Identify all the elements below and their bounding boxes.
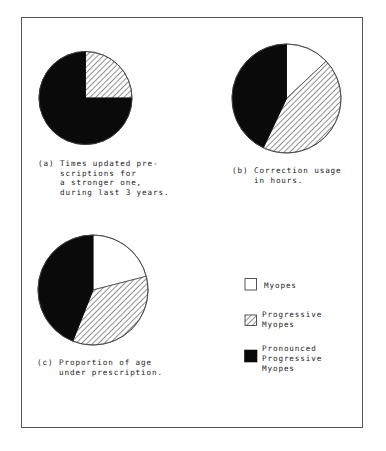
legend-item-myopes: Myopes <box>245 279 297 291</box>
caption-a-line: during last 3 years. <box>60 188 169 197</box>
caption-a-line: Times updated pre- <box>60 159 159 168</box>
legend-item-pronounced-progressive-myopes: Pronounced Progressive Myopes <box>245 344 323 373</box>
caption-b: (b) Correction usage in hours. <box>232 166 342 185</box>
pie-chart-b <box>232 44 341 153</box>
caption-a-line: a stronger one, <box>60 178 142 187</box>
legend-label: Progressive <box>262 310 322 319</box>
pie-chart-c <box>38 235 148 345</box>
legend-item-progressive-myopes: Progressive Myopes <box>245 310 322 329</box>
caption-c-line: under prescription. <box>59 368 163 377</box>
legend-label: Myopes <box>262 320 295 329</box>
caption-c-label: (c) <box>37 358 53 367</box>
figure: (a) Times updated pre- scriptions for a … <box>0 0 386 451</box>
legend-label: Progressive <box>262 354 322 363</box>
caption-c: (c) Proportion of age under prescription… <box>37 358 163 377</box>
legend-swatch-hatched <box>245 315 257 326</box>
caption-a-line: scriptions for <box>60 169 137 178</box>
legend-label: Pronounced <box>262 344 317 353</box>
caption-b-line: in hours. <box>254 176 303 185</box>
pie-chart-a <box>39 52 132 145</box>
legend-label: Myopes <box>264 281 297 290</box>
caption-c-line: Proportion of age <box>59 358 152 367</box>
legend-swatch-white <box>245 279 257 291</box>
legend: Myopes Progressive Myopes Pronounced Pro… <box>245 279 323 374</box>
caption-b-line: Correction usage <box>254 166 342 175</box>
caption-a-label: (a) <box>38 159 54 168</box>
legend-label: Myopes <box>262 364 295 373</box>
pie-charts-figure: (a) Times updated pre- scriptions for a … <box>0 0 386 451</box>
caption-a: (a) Times updated pre- scriptions for a … <box>38 159 169 197</box>
caption-b-label: (b) <box>232 166 248 175</box>
legend-swatch-black <box>245 350 258 362</box>
pie-slice-a-progressive-myopes <box>86 52 133 99</box>
